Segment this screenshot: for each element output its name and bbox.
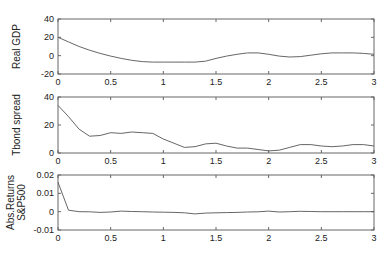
y-tick-label: 0.02 xyxy=(36,170,54,180)
three-panel-line-chart: 00.511.522.53-2002040Real GDP00.511.522.… xyxy=(0,0,391,256)
y-axis-label: S&P500 xyxy=(16,184,27,221)
panel-2: 00.511.522.5302040Tbond spread xyxy=(11,92,377,166)
y-axis-label: Real GDP xyxy=(11,24,22,69)
x-tick-label: 0 xyxy=(55,156,60,166)
x-tick-label: 2.5 xyxy=(315,233,328,243)
y-tick-label: 20 xyxy=(44,120,54,130)
x-tick-label: 1.5 xyxy=(210,77,223,87)
y-tick-label: 40 xyxy=(44,92,54,102)
x-tick-label: 2 xyxy=(266,77,271,87)
x-tick-label: 0.5 xyxy=(104,233,117,243)
x-tick-label: 0 xyxy=(55,77,60,87)
y-axis-label: Abs.Returns xyxy=(5,175,16,230)
x-tick-label: 1 xyxy=(161,77,166,87)
x-tick-label: 2 xyxy=(266,156,271,166)
y-tick-label: -20 xyxy=(41,69,54,79)
y-axis-label: Tbond spread xyxy=(11,94,22,156)
y-tick-label: 0 xyxy=(49,148,54,158)
x-tick-label: 0.5 xyxy=(104,77,117,87)
panel-3: 00.511.522.53-0.0100.010.02Abs.ReturnsS&… xyxy=(5,170,377,243)
y-tick-label: -0.01 xyxy=(33,225,54,235)
panel-1: 00.511.522.53-2002040Real GDP xyxy=(11,14,377,87)
axes-box xyxy=(58,97,374,153)
x-tick-label: 0 xyxy=(55,233,60,243)
y-tick-label: 40 xyxy=(44,14,54,24)
x-tick-label: 3 xyxy=(371,77,376,87)
x-tick-label: 3 xyxy=(371,233,376,243)
x-tick-label: 2 xyxy=(266,233,271,243)
series-line xyxy=(58,37,374,62)
x-tick-label: 1.5 xyxy=(210,156,223,166)
axes-box xyxy=(58,175,374,230)
x-tick-label: 1.5 xyxy=(210,233,223,243)
series-line xyxy=(58,105,374,150)
x-tick-label: 2.5 xyxy=(315,156,328,166)
x-tick-label: 1 xyxy=(161,233,166,243)
x-tick-label: 3 xyxy=(371,156,376,166)
axes-box xyxy=(58,19,374,74)
x-tick-label: 0.5 xyxy=(104,156,117,166)
y-tick-label: 0.01 xyxy=(36,188,54,198)
y-tick-label: 20 xyxy=(44,32,54,42)
y-tick-label: 0 xyxy=(49,51,54,61)
y-tick-label: 0 xyxy=(49,207,54,217)
x-tick-label: 2.5 xyxy=(315,77,328,87)
x-tick-label: 1 xyxy=(161,156,166,166)
series-line xyxy=(58,182,374,214)
